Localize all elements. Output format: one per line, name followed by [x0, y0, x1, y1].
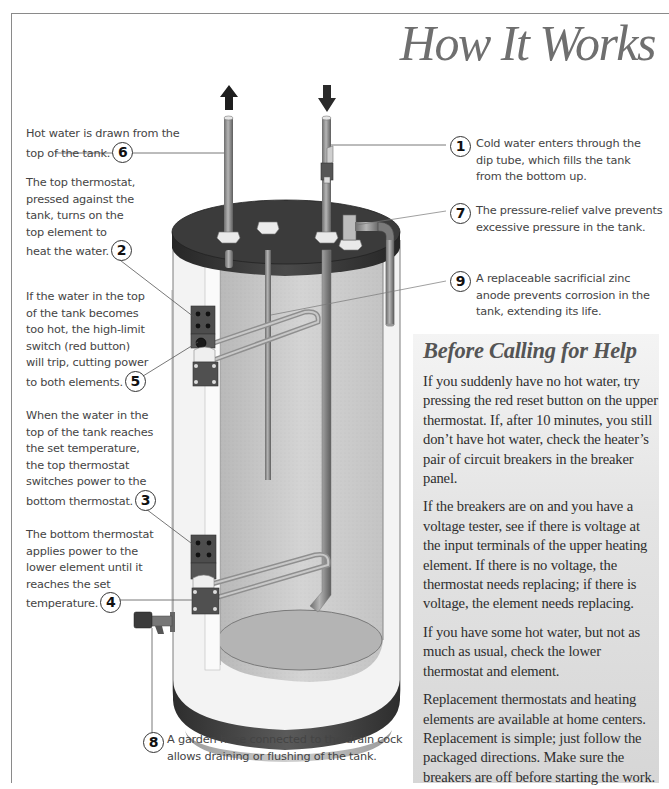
callout-line: anode prevents corrosion in the: [476, 288, 650, 305]
callout-line: applies power to the: [26, 544, 153, 561]
callout-4-bottom-thermostat: The bottom thermostat applies power to t…: [26, 527, 153, 614]
callout-8-drain-cock: 8 A garden hose connected to the drain c…: [141, 732, 402, 765]
sidebar-paragraph: If you suddenly have no hot water, try p…: [423, 372, 659, 488]
callout-number-badge: 5: [125, 371, 146, 392]
callout-line: from the bottom up.: [476, 169, 641, 186]
callout-line: A replaceable sacrificial zinc: [476, 271, 650, 288]
callout-number-badge: 2: [111, 240, 132, 261]
callout-line: switches power to the: [26, 474, 156, 491]
callout-line: bottom thermostat.: [26, 494, 133, 507]
callout-line: top of the tank reaches: [26, 425, 156, 442]
callout-line: The pressure-relief valve prevents: [476, 203, 662, 220]
callout-line: top of the tank.: [26, 146, 110, 159]
callout-7-pressure-relief-valve: 7 The pressure-relief valve prevents exc…: [448, 203, 662, 236]
sidebar-heading: Before Calling for Help: [423, 338, 637, 364]
callout-1-cold-water-in: 1 Cold water enters through the dip tube…: [448, 136, 641, 186]
sidebar-paragraph: If the breakers are on and you have a vo…: [423, 497, 659, 613]
callout-line: temperature.: [26, 597, 98, 610]
callout-line: The top thermostat,: [26, 175, 135, 192]
callout-5-high-limit-switch: If the water in the top of the tank beco…: [26, 289, 148, 393]
callout-6-hot-water-out: Hot water is drawn from the top of the t…: [26, 126, 180, 164]
callout-line: Hot water is drawn from the: [26, 126, 180, 143]
callout-number-badge: 6: [112, 142, 133, 163]
callout-number-badge: 1: [450, 136, 471, 157]
before-calling-for-help-sidebar: Before Calling for Help If you suddenly …: [413, 334, 659, 783]
callout-line: reaches the set: [26, 577, 153, 594]
callout-line: A garden hose connected to the drain coc…: [167, 732, 402, 749]
callout-line: the set temperature,: [26, 441, 156, 458]
callout-line: the top thermostat: [26, 458, 156, 475]
callout-number-badge: 7: [450, 203, 471, 224]
callout-line: top element to: [26, 225, 135, 242]
callout-line: lower element until it: [26, 560, 153, 577]
callout-line: When the water in the: [26, 408, 156, 425]
callout-number-badge: 4: [100, 592, 121, 613]
callout-line: will trip, cutting power: [26, 355, 148, 372]
callout-line: excessive pressure in the tank.: [476, 220, 662, 237]
callout-line: pressed against the: [26, 192, 135, 209]
hot-water-out-arrow-icon: [220, 85, 238, 110]
callout-2-top-thermostat: The top thermostat, pressed against the …: [26, 175, 135, 262]
callout-line: switch (red button): [26, 339, 148, 356]
callout-line: allows draining or flushing of the tank.: [167, 749, 402, 766]
callout-line: to both elements.: [26, 375, 123, 388]
callout-line: The bottom thermostat: [26, 527, 153, 544]
callout-line: tank, turns on the: [26, 208, 135, 225]
sidebar-body: If you suddenly have no hot water, try p…: [423, 372, 659, 789]
callout-line: dip tube, which fills the tank: [476, 153, 641, 170]
callout-line: heat the water.: [26, 245, 109, 258]
callout-line: of the tank becomes: [26, 306, 148, 323]
callout-3-switch-to-bottom: When the water in the top of the tank re…: [26, 408, 156, 512]
callout-9-anode-rod: 9 A replaceable sacrificial zinc anode p…: [448, 271, 650, 321]
callout-number-badge: 3: [135, 490, 156, 511]
callout-number-badge: 8: [143, 732, 164, 753]
sidebar-paragraph: If you have some hot water, but not as m…: [423, 623, 659, 681]
cold-water-in-arrow-icon: [318, 85, 336, 112]
callout-line: too hot, the high-limit: [26, 322, 148, 339]
callout-number-badge: 9: [450, 271, 471, 292]
callout-line: tank, extending its life.: [476, 304, 650, 321]
callout-line: Cold water enters through the: [476, 136, 641, 153]
callout-line: If the water in the top: [26, 289, 148, 306]
sidebar-paragraph: Replacement thermostats and heating elem…: [423, 690, 659, 787]
